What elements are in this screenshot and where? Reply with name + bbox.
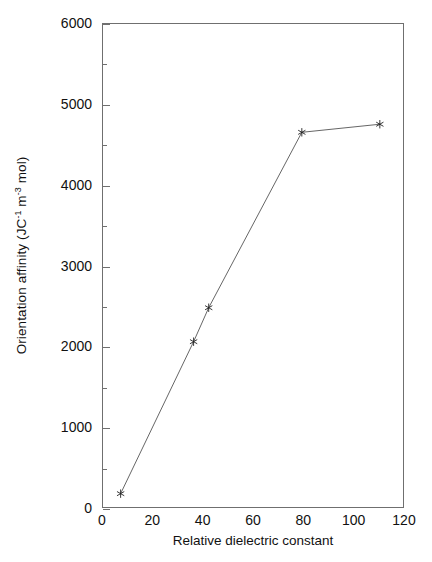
x-axis-tick-label: 100 xyxy=(342,512,365,528)
y-axis-tick-label: 5000 xyxy=(61,96,92,112)
series-line xyxy=(121,124,380,493)
y-axis-tick-minor xyxy=(103,307,107,308)
y-axis-tick-major xyxy=(103,186,110,187)
y-axis-tick-minor xyxy=(103,469,107,470)
y-axis-tick-major xyxy=(103,24,110,25)
y-axis-tick-minor xyxy=(103,64,107,65)
y-axis-tick-label: 6000 xyxy=(61,15,92,31)
y-axis-tick-label: 0 xyxy=(84,500,92,516)
y-axis-title: Orientation affinity (JC-1 m-3 mol) xyxy=(15,156,30,354)
x-axis-tick-label: 20 xyxy=(145,512,161,528)
x-axis-tick-label: 60 xyxy=(245,512,261,528)
y-axis-tick-minor xyxy=(103,145,107,146)
y-axis-tick-major xyxy=(103,267,110,268)
y-axis-tick-labels: 0100020003000400050006000 xyxy=(44,23,98,508)
y-axis-title-sup2: -3 xyxy=(13,187,23,195)
x-axis-tick-label: 40 xyxy=(195,512,211,528)
y-axis-tick-minor xyxy=(103,388,107,389)
x-axis-tick-labels: 020406080100120 xyxy=(102,512,404,534)
y-axis-title-wrap: Orientation affinity (JC-1 m-3 mol) xyxy=(0,0,44,510)
x-axis-tick-label: 80 xyxy=(296,512,312,528)
x-axis-tick-label: 120 xyxy=(392,512,415,528)
y-axis-tick-label: 4000 xyxy=(61,177,92,193)
x-axis-title: Relative dielectric constant xyxy=(102,533,404,548)
y-axis-title-part3: mol) xyxy=(15,156,30,187)
y-axis-tick-minor xyxy=(103,226,107,227)
data-point-marker xyxy=(190,337,197,345)
data-point-marker xyxy=(205,304,212,312)
y-axis-tick-major xyxy=(103,105,110,106)
chart-figure: Orientation affinity (JC-1 m-3 mol) 0100… xyxy=(0,0,432,562)
y-axis-tick-major xyxy=(103,509,110,510)
plot-area xyxy=(102,23,404,508)
x-axis-tick-label: 0 xyxy=(98,512,106,528)
y-axis-tick-label: 2000 xyxy=(61,338,92,354)
y-axis-title-part1: Orientation affinity (JC xyxy=(15,218,30,354)
y-axis-tick-major xyxy=(103,428,110,429)
y-axis-tick-label: 1000 xyxy=(61,419,92,435)
y-axis-title-part2: m xyxy=(15,195,30,210)
y-axis-title-sup1: -1 xyxy=(13,210,23,218)
data-point-marker xyxy=(117,489,124,497)
data-series-svg xyxy=(103,24,405,509)
y-axis-tick-major xyxy=(103,347,110,348)
y-axis-tick-label: 3000 xyxy=(61,258,92,274)
